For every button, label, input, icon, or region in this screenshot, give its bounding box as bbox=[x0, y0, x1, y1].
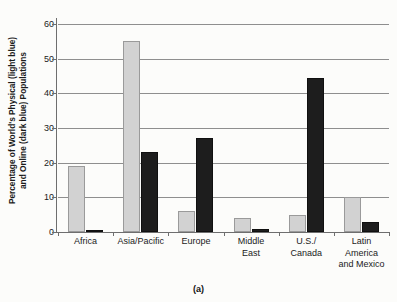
y-axis-title-line2: and Online (dark blue) Populations bbox=[18, 36, 29, 203]
x-tick-label-line: Latin bbox=[334, 236, 389, 248]
x-tick-label-line: U.S./ bbox=[279, 236, 334, 248]
y-tick-mark bbox=[52, 24, 57, 25]
x-tick-label: MiddleEast bbox=[224, 236, 279, 259]
x-tick-label: Africa bbox=[58, 236, 113, 248]
bar-online bbox=[141, 152, 158, 232]
bar-physical bbox=[234, 218, 251, 232]
y-tick-mark bbox=[52, 197, 57, 198]
x-tick-label: LatinAmericaand Mexico bbox=[334, 236, 389, 271]
bar-group bbox=[58, 24, 113, 232]
bar-online bbox=[196, 138, 213, 232]
x-tick-mark bbox=[389, 232, 390, 236]
bar-group bbox=[168, 24, 223, 232]
x-axis-line bbox=[56, 232, 389, 233]
bar-group bbox=[279, 24, 334, 232]
y-axis-line bbox=[56, 18, 57, 232]
x-axis-tick-labels: AfricaAsia/PacificEuropeMiddleEastU.S./C… bbox=[58, 236, 389, 286]
y-tick-mark bbox=[52, 163, 57, 164]
y-axis-title: Percentage of World's Physical (light bl… bbox=[0, 0, 36, 240]
bar-group bbox=[334, 24, 389, 232]
figure-caption: (a) bbox=[0, 284, 397, 294]
bar-physical bbox=[178, 211, 195, 232]
y-tick-mark bbox=[52, 59, 57, 60]
x-tick-label-line: Canada bbox=[279, 248, 334, 260]
bar-physical bbox=[289, 215, 306, 232]
bar-physical bbox=[123, 41, 140, 232]
bar-online bbox=[307, 78, 324, 232]
x-tick-label: Europe bbox=[168, 236, 223, 248]
x-tick-label-line: Africa bbox=[58, 236, 113, 248]
y-axis-tick-labels: 0102030405060 bbox=[36, 18, 56, 234]
x-tick-label-line: Europe bbox=[168, 236, 223, 248]
x-tick-label-line: Asia/Pacific bbox=[113, 236, 168, 248]
bar-online bbox=[252, 229, 269, 232]
y-axis-title-line1: Percentage of World's Physical (light bl… bbox=[8, 36, 18, 203]
plot-area bbox=[58, 24, 389, 232]
bar-physical bbox=[344, 197, 361, 232]
x-tick-label-line: Middle bbox=[224, 236, 279, 248]
y-tick-mark bbox=[52, 128, 57, 129]
bar-online bbox=[86, 230, 103, 232]
x-tick-label-line: America bbox=[334, 248, 389, 260]
bar-online bbox=[362, 222, 379, 232]
bar-group bbox=[224, 24, 279, 232]
bar-physical bbox=[68, 166, 85, 232]
x-tick-label-line: East bbox=[224, 248, 279, 260]
x-tick-label: U.S./Canada bbox=[279, 236, 334, 259]
x-tick-label-line: and Mexico bbox=[334, 259, 389, 271]
y-tick-mark bbox=[52, 232, 57, 233]
x-tick-label: Asia/Pacific bbox=[113, 236, 168, 248]
chart-figure: Percentage of World's Physical (light bl… bbox=[0, 0, 397, 302]
bar-group bbox=[113, 24, 168, 232]
y-tick-mark bbox=[52, 93, 57, 94]
